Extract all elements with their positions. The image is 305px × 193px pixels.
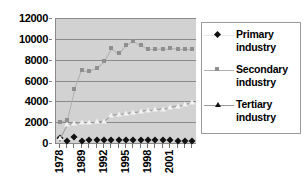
legend-label: Secondaryindustry — [236, 63, 288, 88]
data-point-triangle — [160, 106, 166, 111]
x-tick-mark — [66, 144, 67, 148]
x-tick-mark — [147, 144, 148, 148]
y-tick-label: 0 — [42, 137, 48, 149]
y-tick-label: 6000 — [25, 75, 48, 87]
y-tick-label: 2000 — [25, 116, 48, 128]
chart-legend: PrimaryindustrySecondaryindustryTertiary… — [201, 22, 301, 134]
legend-entry[interactable]: Primaryindustry — [202, 28, 298, 60]
legend-marker-diamond-icon — [214, 31, 221, 38]
data-point-triangle — [167, 105, 173, 110]
x-tick-mark — [184, 144, 185, 148]
data-point-triangle — [175, 103, 181, 108]
data-point-triangle — [152, 107, 158, 112]
x-tick-mark — [132, 144, 133, 148]
y-axis: 020004000600080001000012000 — [0, 0, 52, 193]
y-tick-label: 12000 — [19, 12, 48, 24]
data-point-triangle — [86, 119, 92, 124]
x-tick-mark — [154, 144, 155, 148]
y-tick-mark — [49, 122, 52, 123]
y-tick-mark — [49, 18, 52, 19]
y-tick-label: 10000 — [19, 33, 48, 45]
x-tick-mark — [140, 144, 141, 148]
x-tick-mark — [81, 144, 82, 148]
y-tick-label: 4000 — [25, 95, 48, 107]
x-tick-label: 1992 — [97, 150, 109, 173]
legend-key-square — [202, 64, 236, 78]
data-point-triangle — [108, 112, 114, 117]
legend-label-line2: industry — [236, 111, 276, 124]
series-triangle — [56, 18, 196, 143]
legend-entry[interactable]: Tertiaryindustry — [202, 98, 298, 130]
x-tick-mark — [59, 144, 60, 148]
x-tick-mark — [191, 144, 192, 148]
x-axis-ticks — [55, 144, 196, 149]
x-axis: 197819891992199519982001 — [55, 150, 196, 193]
legend-marker-square-icon — [215, 67, 219, 71]
legend-label-line1: Tertiary — [236, 98, 276, 111]
y-tick-mark — [49, 60, 52, 61]
legend-entry[interactable]: Secondaryindustry — [202, 63, 298, 95]
plot-area — [55, 18, 196, 144]
data-point-triangle — [71, 120, 77, 125]
data-point-triangle — [94, 119, 100, 124]
y-tick-mark — [49, 101, 52, 102]
y-tick-label: 8000 — [25, 54, 48, 66]
y-tick-mark — [49, 39, 52, 40]
x-tick-mark — [177, 144, 178, 148]
data-point-triangle — [138, 109, 144, 114]
x-tick-mark — [88, 144, 89, 148]
y-tick-mark — [49, 81, 52, 82]
data-point-triangle — [79, 119, 85, 124]
x-tick-mark — [96, 144, 97, 148]
x-tick-mark — [169, 144, 170, 148]
x-tick-label: 1989 — [75, 150, 87, 173]
x-tick-mark — [73, 144, 74, 148]
data-series-layer — [56, 18, 196, 143]
data-point-triangle — [57, 136, 63, 141]
data-point-triangle — [145, 107, 151, 112]
legend-label: Primaryindustry — [236, 28, 276, 53]
x-tick-label: 1995 — [119, 150, 131, 173]
x-tick-mark — [118, 144, 119, 148]
chart-container: 020004000600080001000012000 197819891992… — [0, 0, 305, 193]
x-tick-label: 2001 — [163, 150, 175, 173]
legend-marker-triangle-icon — [215, 102, 221, 107]
legend-label-line2: industry — [236, 76, 288, 89]
data-point-triangle — [123, 110, 129, 115]
legend-label-line1: Secondary — [236, 63, 288, 76]
legend-key-triangle — [202, 99, 236, 113]
legend-line — [204, 70, 234, 71]
legend-label-line2: industry — [236, 41, 276, 54]
x-tick-mark — [110, 144, 111, 148]
x-tick-label: 1998 — [141, 150, 153, 173]
x-tick-mark — [103, 144, 104, 148]
data-point-triangle — [116, 111, 122, 116]
data-point-triangle — [189, 100, 195, 105]
legend-label-line1: Primary — [236, 28, 276, 41]
data-point-triangle — [64, 121, 70, 126]
y-tick-mark — [49, 143, 52, 144]
x-tick-mark — [162, 144, 163, 148]
data-point-triangle — [182, 101, 188, 106]
data-point-triangle — [130, 109, 136, 114]
legend-label: Tertiaryindustry — [236, 98, 276, 123]
x-tick-label: 1978 — [53, 150, 65, 173]
data-point-triangle — [101, 119, 107, 124]
x-tick-mark — [125, 144, 126, 148]
legend-key-diamond — [202, 29, 236, 43]
